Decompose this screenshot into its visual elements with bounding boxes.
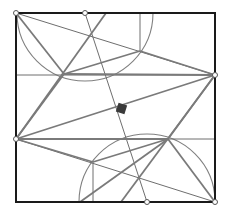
vertex-dot-C: [213, 73, 218, 78]
thick-fold-lines: [16, 13, 215, 202]
vertex-dot-D: [14, 137, 19, 142]
vertex-dot-A: [14, 11, 19, 16]
vertex-dot-F: [213, 200, 218, 205]
geometry-diagram: [0, 0, 228, 214]
fold-line: [93, 139, 168, 162]
vertex-dot-E: [145, 200, 150, 205]
fold-line: [16, 75, 215, 139]
vertex-dot-B: [83, 11, 88, 16]
fold-line: [16, 13, 106, 139]
construction-arc: [17, 13, 153, 81]
fold-line: [16, 139, 93, 162]
fold-line: [140, 51, 215, 75]
fold-line: [64, 74, 215, 75]
fold-line: [16, 13, 64, 74]
